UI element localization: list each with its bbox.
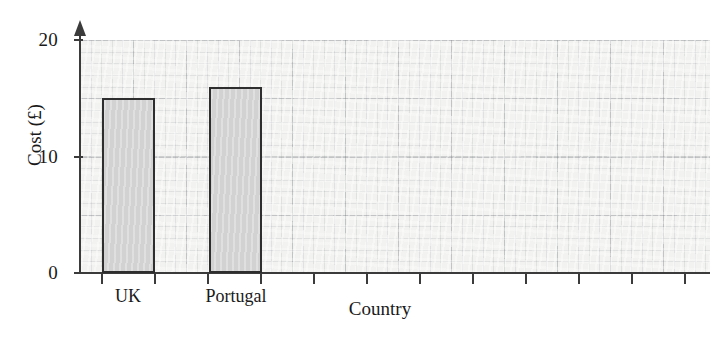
x-tick-mark	[578, 274, 580, 284]
bar-portugal	[209, 87, 262, 273]
y-axis-arrow-icon	[74, 20, 86, 36]
x-tick-mark	[366, 274, 368, 284]
x-axis-line	[79, 272, 710, 274]
x-axis-title-text: Country	[349, 298, 411, 320]
bar-uk	[102, 98, 155, 273]
x-tick-mark	[207, 274, 209, 284]
x-tick-mark	[472, 274, 474, 284]
x-tick-mark	[684, 274, 686, 284]
x-tick-mark	[313, 274, 315, 284]
x-tick-mark	[419, 274, 421, 284]
x-tick-mark	[101, 274, 103, 284]
x-tick-mark	[154, 274, 156, 284]
y-tick-mark	[74, 272, 83, 274]
y-tick-label: 20	[14, 30, 58, 49]
x-tick-mark	[260, 274, 262, 284]
bar-chart-figure: 20 10 0 UK Portugal Cost (£) Country	[0, 0, 720, 337]
y-axis-line	[79, 34, 81, 274]
plot-area-graph-paper	[80, 40, 710, 273]
x-tick-mark	[631, 274, 633, 284]
x-tick-mark	[525, 274, 527, 284]
x-axis-title: Country	[0, 298, 720, 320]
y-tick-mark	[74, 39, 83, 41]
y-axis-title: Cost (£)	[24, 55, 46, 215]
y-tick-mark	[74, 156, 83, 158]
y-tick-label: 0	[14, 263, 58, 282]
